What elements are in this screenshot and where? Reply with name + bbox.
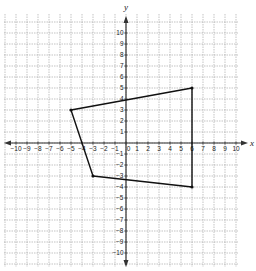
- x-tick-label: 8: [212, 145, 216, 152]
- y-tick-label: −10: [112, 249, 123, 256]
- x-axis-right-arrow-icon: [241, 141, 248, 146]
- x-tick-label: −8: [34, 145, 42, 152]
- y-axis-down-arrow-icon: [124, 260, 129, 267]
- x-tick-label: −5: [67, 145, 75, 152]
- x-tick-label: 0: [127, 145, 131, 152]
- coordinate-plane: −10−9−8−7−6−5−4−3−2−1012345678910−10−9−8…: [0, 0, 256, 271]
- y-tick-label: −8: [116, 227, 124, 234]
- y-tick-label: 9: [120, 40, 124, 47]
- y-tick-label: −6: [116, 205, 124, 212]
- y-tick-label: 5: [120, 84, 124, 91]
- y-tick-label: −4: [116, 183, 124, 190]
- x-tick-label: 4: [168, 145, 172, 152]
- y-axis-label: y: [123, 2, 128, 12]
- x-tick-label: 3: [157, 145, 161, 152]
- y-tick-label: 8: [120, 51, 124, 58]
- x-tick-label: 9: [223, 145, 227, 152]
- vertex-point: [69, 108, 72, 111]
- polygon: [69, 86, 193, 188]
- x-tick-label: 7: [201, 145, 205, 152]
- x-tick-label: 2: [146, 145, 150, 152]
- x-axis-label: x: [249, 138, 254, 148]
- polygon-outline: [71, 88, 192, 187]
- x-tick-label: −6: [56, 145, 64, 152]
- y-tick-label: 2: [120, 117, 124, 124]
- x-tick-label: −2: [100, 145, 108, 152]
- vertex-point: [91, 174, 94, 177]
- y-tick-label: 3: [120, 106, 124, 113]
- y-tick-label: −5: [116, 194, 124, 201]
- vertex-point: [190, 86, 193, 89]
- y-tick-label: −9: [116, 238, 124, 245]
- vertex-point: [190, 185, 193, 188]
- y-tick-label: −7: [116, 216, 124, 223]
- y-axis-up-arrow-icon: [124, 16, 129, 23]
- x-tick-label: −9: [23, 145, 31, 152]
- x-tick-label: −3: [89, 145, 97, 152]
- x-tick-label: 5: [179, 145, 183, 152]
- x-tick-label: 10: [232, 145, 240, 152]
- y-tick-label: 10: [116, 29, 124, 36]
- y-tick-label: −1: [116, 150, 124, 157]
- y-tick-label: −2: [116, 161, 124, 168]
- y-tick-label: 6: [120, 73, 124, 80]
- y-tick-label: 1: [120, 128, 124, 135]
- x-tick-label: 1: [135, 145, 139, 152]
- x-tick-label: −10: [10, 145, 21, 152]
- y-tick-label: 7: [120, 62, 124, 69]
- x-tick-label: −7: [45, 145, 53, 152]
